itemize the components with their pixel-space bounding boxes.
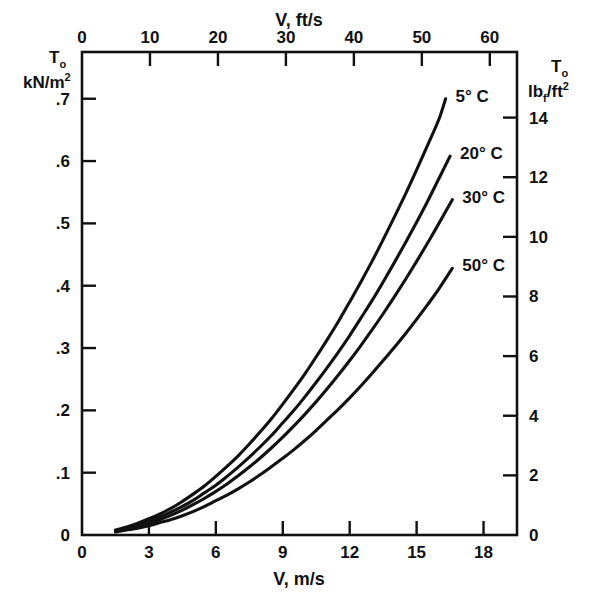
data-curves-group [115, 99, 452, 532]
right-axis-ticks [503, 118, 517, 476]
curve-label-20-c: 20° C [460, 144, 503, 163]
top-axis-ticks [150, 52, 490, 66]
top-tick-label: 60 [480, 28, 499, 47]
curve-label-30-c: 30° C [462, 188, 505, 207]
curve-label-50-c: 50° C [462, 256, 505, 275]
right-tick-label: 12 [529, 168, 548, 187]
left-tick-label: .4 [56, 277, 71, 296]
curve-50-c [115, 268, 452, 532]
left-axis-symbol: To [49, 48, 66, 70]
top-tick-label: 0 [77, 28, 86, 47]
right-tick-label: 10 [529, 228, 548, 247]
bottom-tick-label: 18 [474, 543, 493, 562]
top-tick-label: 30 [276, 28, 295, 47]
left-tick-label: .3 [56, 339, 70, 358]
top-tick-label: 20 [208, 28, 227, 47]
left-tick-label: .6 [56, 152, 70, 171]
top-tick-label: 40 [344, 28, 363, 47]
bottom-tick-label: 9 [278, 543, 287, 562]
bottom-tick-label: 3 [144, 543, 153, 562]
right-tick-label: 14 [529, 109, 548, 128]
bottom-tick-label: 12 [340, 543, 359, 562]
right-tick-label: 2 [529, 466, 538, 485]
left-axis-title: To kN/m2 [23, 48, 71, 92]
left-tick-label: .1 [56, 464, 70, 483]
curve-20-c [115, 156, 450, 531]
shear-stress-vs-velocity-chart: 0.1.2.3.4.5.6.7 02468101214 010203040506… [0, 0, 600, 600]
right-axis-title: To lbf/ft2 [528, 57, 569, 104]
curve-label-5-c: 5° C [456, 87, 489, 106]
bottom-tick-label: 0 [77, 543, 86, 562]
plot-frame [82, 52, 517, 535]
left-axis-unit: kN/m2 [23, 71, 71, 92]
right-tick-label: 4 [529, 407, 539, 426]
right-axis-unit: lbf/ft2 [528, 80, 569, 104]
left-tick-label: .2 [56, 401, 70, 420]
top-axis-title: V, ft/s [275, 10, 322, 30]
left-tick-label: .5 [56, 214, 70, 233]
bottom-axis-title: V, m/s [273, 569, 324, 589]
right-tick-label: 8 [529, 287, 538, 306]
figure-container: 0.1.2.3.4.5.6.7 02468101214 010203040506… [0, 0, 600, 600]
left-axis-tick-labels: 0.1.2.3.4.5.6.7 [56, 90, 71, 545]
right-axis-tick-labels: 02468101214 [529, 109, 548, 545]
left-tick-label: .7 [56, 90, 70, 109]
bottom-axis-ticks [149, 521, 484, 535]
right-tick-label: 6 [529, 347, 538, 366]
bottom-tick-label: 6 [211, 543, 220, 562]
right-tick-label: 0 [529, 526, 538, 545]
top-tick-label: 10 [141, 28, 160, 47]
left-tick-label: 0 [61, 526, 70, 545]
curve-labels-group: 5° C20° C30° C50° C [456, 87, 505, 276]
left-axis-ticks [82, 99, 96, 473]
right-axis-symbol: To [551, 57, 568, 79]
bottom-tick-label: 15 [407, 543, 426, 562]
curve-5-c [115, 99, 445, 530]
top-tick-label: 50 [412, 28, 431, 47]
top-axis-tick-labels: 0102030405060 [77, 28, 499, 47]
bottom-axis-tick-labels: 0369121518 [77, 543, 493, 562]
